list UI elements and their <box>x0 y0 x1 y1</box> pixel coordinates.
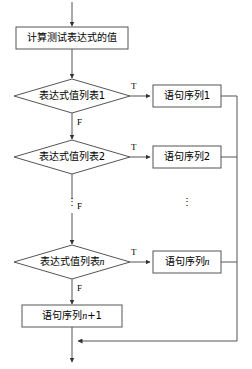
node-stmt1-box <box>153 85 221 107</box>
node-stmtn-box <box>153 251 221 273</box>
flowchart-graphics <box>0 0 252 369</box>
node-compute-box <box>16 27 128 49</box>
flowchart-canvas: 计算测试表达式的值 表达式值列表1 表达式值列表2 表达式值列表n 语句序列1 … <box>0 0 252 369</box>
node-stmt2-box <box>153 146 221 168</box>
node-cond1-diamond <box>14 79 130 113</box>
node-cond2-diamond <box>14 140 130 174</box>
node-stmtn1-box <box>22 305 122 327</box>
node-condn-diamond <box>14 245 130 279</box>
